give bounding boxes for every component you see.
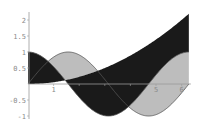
- y-tick-label: 0.5: [13, 65, 26, 73]
- y-tick-label: 1: [22, 49, 26, 57]
- filled-curves-plot: 156 21.510.5-0.5-1: [0, 0, 202, 126]
- y-ticks: 21.510.5-0.5-1: [9, 17, 29, 121]
- y-axis: 21.510.5-0.5-1: [9, 12, 29, 121]
- y-tick-label: -1: [18, 113, 26, 121]
- y-tick-label: -0.5: [9, 97, 26, 105]
- y-tick-label: 1.5: [13, 33, 26, 41]
- x-tick-label: 1: [51, 86, 55, 94]
- y-tick-label: 2: [22, 17, 26, 25]
- x-tick-label: 5: [154, 86, 158, 94]
- x-tick-label: 6: [179, 86, 183, 94]
- plot-area: [28, 14, 189, 116]
